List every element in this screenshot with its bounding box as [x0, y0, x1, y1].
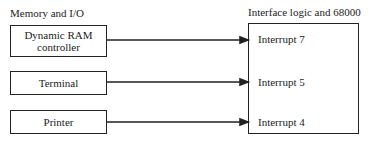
arrowhead-icon [240, 119, 248, 125]
connection-arrows [0, 0, 370, 141]
arrowhead-icon [240, 37, 248, 43]
arrowhead-icon [240, 79, 248, 85]
